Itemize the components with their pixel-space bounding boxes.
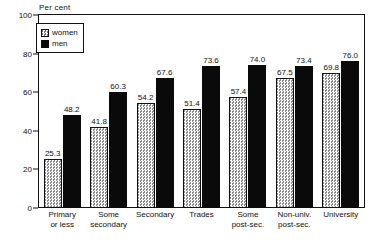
bar-men-5 <box>295 66 313 208</box>
bar-women-2 <box>137 103 155 208</box>
bar-value-label: 48.2 <box>64 105 80 114</box>
bar-value-label: 69.8 <box>323 63 339 72</box>
x-axis-category-label: Non-univ.post-sec. <box>271 210 317 230</box>
bar-value-label: 57.4 <box>231 87 247 96</box>
bar-value-label: 54.2 <box>138 93 154 102</box>
bar-value-label: 76.0 <box>342 51 358 60</box>
bar-value-label: 74.0 <box>250 55 266 64</box>
x-axis-category-label: Primaryor less <box>39 210 85 230</box>
bar-men-3 <box>202 66 220 208</box>
bar-value-label: 67.5 <box>277 68 293 77</box>
x-axis-category-label: University <box>318 210 364 220</box>
chart-legend: women men <box>36 23 84 53</box>
bar-value-label: 67.6 <box>157 68 173 77</box>
bar-women-3 <box>183 109 201 208</box>
bar-women-5 <box>276 78 294 208</box>
x-axis-category-label: Secondary <box>132 210 178 220</box>
bar-chart: Per cent 020406080100 25.341.854.251.457… <box>0 0 380 240</box>
bar-value-label: 60.3 <box>110 82 126 91</box>
bar-value-label: 73.6 <box>203 56 219 65</box>
bar-men-2 <box>156 78 174 208</box>
bars-layer: 25.341.854.251.457.467.569.848.260.367.6… <box>39 15 364 208</box>
y-axis-tick-label: 100 <box>19 11 32 20</box>
bar-women-1 <box>90 127 108 208</box>
legend-item-men: men <box>41 38 78 49</box>
bar-men-1 <box>109 92 127 208</box>
bar-value-label: 51.4 <box>184 99 200 108</box>
x-axis-category-label: Somesecondary <box>85 210 131 230</box>
bar-women-4 <box>229 97 247 208</box>
legend-item-women: women <box>41 27 78 38</box>
legend-swatch-men-icon <box>41 40 49 48</box>
y-axis-tick-label: 60 <box>23 88 32 97</box>
x-axis-category-label: Trades <box>178 210 224 220</box>
y-axis-tick-label: 40 <box>23 126 32 135</box>
legend-label-women: women <box>52 28 78 37</box>
y-axis: 020406080100 <box>0 0 38 240</box>
legend-label-men: men <box>52 39 68 48</box>
bar-value-label: 25.3 <box>45 149 61 158</box>
bar-men-6 <box>341 61 359 208</box>
legend-swatch-women-icon <box>41 29 49 37</box>
bar-value-label: 41.8 <box>91 117 107 126</box>
x-axis-category-label: Somepost-sec. <box>225 210 271 230</box>
bar-women-6 <box>322 73 340 208</box>
bar-value-label: 73.4 <box>296 56 312 65</box>
y-axis-tick-label: 80 <box>23 49 32 58</box>
y-axis-tick-label: 20 <box>23 165 32 174</box>
bar-men-4 <box>248 65 266 208</box>
x-axis-category-labels: Primaryor lessSomesecondarySecondaryTrad… <box>39 210 364 240</box>
bar-men-0 <box>63 115 81 208</box>
bar-women-0 <box>44 159 62 208</box>
y-axis-unit-label: Per cent <box>39 3 70 12</box>
y-axis-tick-label: 0 <box>28 204 32 213</box>
